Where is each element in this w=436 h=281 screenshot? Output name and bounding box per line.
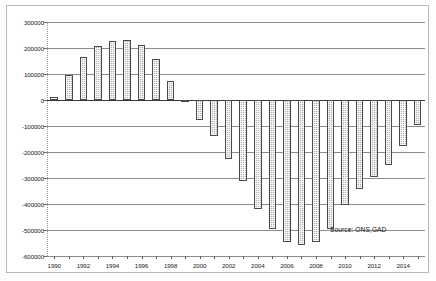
bar xyxy=(327,100,335,229)
x-tick-mark xyxy=(142,256,143,259)
bar xyxy=(225,100,233,159)
x-tick-label: 1994 xyxy=(106,262,119,269)
bar xyxy=(80,57,88,100)
bar xyxy=(298,100,306,245)
gridline xyxy=(47,152,425,153)
gridline xyxy=(47,178,425,179)
x-tick-mark xyxy=(54,256,55,259)
x-tick-mark xyxy=(98,256,99,259)
plot-area xyxy=(47,22,425,256)
x-tick-mark xyxy=(345,256,346,259)
y-tick-mark xyxy=(43,100,47,101)
bar xyxy=(210,100,218,136)
bar xyxy=(341,100,349,205)
bar xyxy=(312,100,320,242)
gridline xyxy=(47,204,425,205)
x-tick-label: 2000 xyxy=(193,262,206,269)
x-tick-mark xyxy=(316,256,317,259)
bar xyxy=(414,100,422,125)
bar xyxy=(65,75,73,100)
y-tick-mark xyxy=(43,204,47,205)
y-tick-label: -200000 xyxy=(22,149,44,156)
x-tick-mark xyxy=(229,256,230,259)
y-tick-mark xyxy=(43,152,47,153)
y-tick-label: -500000 xyxy=(22,227,44,234)
x-tick-label: 2004 xyxy=(251,262,264,269)
bar xyxy=(138,45,146,100)
bar xyxy=(283,100,291,242)
chart-container: 3000002000001000000-100000-200000-300000… xyxy=(0,0,436,281)
x-tick-mark xyxy=(83,256,84,259)
x-tick-mark xyxy=(301,256,302,259)
bar xyxy=(50,97,58,100)
gridline xyxy=(47,22,425,23)
source-annotation: Source: ONS,GAD xyxy=(330,226,386,233)
y-tick-mark xyxy=(43,230,47,231)
y-tick-label: 200000 xyxy=(24,45,44,52)
x-tick-mark xyxy=(374,256,375,259)
y-tick-label: 100000 xyxy=(24,71,44,78)
bar xyxy=(123,40,131,100)
x-tick-mark xyxy=(69,256,70,259)
bar xyxy=(254,100,262,209)
x-tick-mark xyxy=(272,256,273,259)
y-tick-mark xyxy=(43,126,47,127)
x-axis-ticks xyxy=(47,256,425,260)
x-tick-mark xyxy=(112,256,113,259)
bar xyxy=(152,59,160,100)
y-tick-label: -300000 xyxy=(22,175,44,182)
x-tick-label: 2010 xyxy=(338,262,351,269)
gridline xyxy=(47,74,425,75)
bar xyxy=(94,46,102,100)
x-tick-mark xyxy=(418,256,419,259)
x-tick-label: 1996 xyxy=(135,262,148,269)
y-tick-label: -600000 xyxy=(22,253,44,260)
x-tick-label: 1990 xyxy=(48,262,61,269)
x-tick-label: 2012 xyxy=(367,262,380,269)
x-tick-mark xyxy=(243,256,244,259)
x-tick-mark xyxy=(403,256,404,259)
bar xyxy=(167,81,175,101)
bar xyxy=(356,100,364,189)
x-tick-mark xyxy=(287,256,288,259)
x-tick-mark xyxy=(185,256,186,259)
y-tick-mark xyxy=(43,256,47,257)
gridline xyxy=(47,126,425,127)
bar xyxy=(399,100,407,146)
x-tick-label: 1992 xyxy=(77,262,90,269)
x-tick-mark xyxy=(200,256,201,259)
bar xyxy=(181,100,189,102)
y-tick-label: 300000 xyxy=(24,19,44,26)
x-tick-label: 2014 xyxy=(397,262,410,269)
bar xyxy=(269,100,277,229)
y-tick-mark xyxy=(43,74,47,75)
y-tick-mark xyxy=(43,22,47,23)
x-tick-mark xyxy=(331,256,332,259)
bar xyxy=(370,100,378,177)
x-tick-mark xyxy=(360,256,361,259)
x-tick-label: 2002 xyxy=(222,262,235,269)
x-tick-mark xyxy=(171,256,172,259)
x-tick-mark xyxy=(214,256,215,259)
y-tick-label: -400000 xyxy=(22,201,44,208)
y-tick-mark xyxy=(43,48,47,49)
bar xyxy=(196,100,204,120)
x-tick-mark xyxy=(156,256,157,259)
zero-axis-line xyxy=(47,100,425,101)
x-tick-label: 2008 xyxy=(309,262,322,269)
bar xyxy=(239,100,247,181)
y-tick-mark xyxy=(43,178,47,179)
y-axis-labels: 3000002000001000000-100000-200000-300000… xyxy=(0,0,44,281)
gridline xyxy=(47,48,425,49)
y-axis-line xyxy=(47,22,49,256)
x-tick-label: 2006 xyxy=(280,262,293,269)
x-tick-mark xyxy=(258,256,259,259)
y-tick-label: -100000 xyxy=(22,123,44,130)
x-tick-label: 1998 xyxy=(164,262,177,269)
x-tick-mark xyxy=(127,256,128,259)
bar xyxy=(385,100,393,165)
bar xyxy=(109,41,117,100)
x-tick-mark xyxy=(389,256,390,259)
